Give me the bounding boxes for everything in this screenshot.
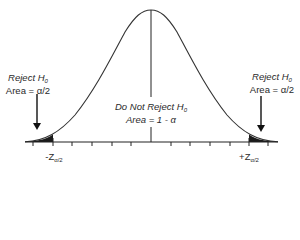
- right-arrow-icon: [257, 96, 265, 132]
- left-critical-value: -Zα/2: [34, 152, 74, 165]
- left-region-title: Reject H: [8, 72, 44, 83]
- left-region-area: Area = α/2: [0, 86, 56, 96]
- right-region-title: Reject H: [252, 71, 288, 82]
- right-region-area: Area = α/2: [244, 85, 300, 95]
- center-region-label: Do Not Reject H0 Area = 1 - α: [101, 102, 201, 125]
- center-region-title: Do Not Reject H: [115, 101, 184, 112]
- center-region-area: Area = 1 - α: [101, 115, 201, 125]
- left-region-label: Reject H0 Area = α/2: [0, 73, 56, 96]
- right-critical-value: +Zα/2: [229, 152, 269, 165]
- left-arrow-icon: [33, 94, 41, 130]
- right-region-label: Reject H0 Area = α/2: [244, 72, 300, 95]
